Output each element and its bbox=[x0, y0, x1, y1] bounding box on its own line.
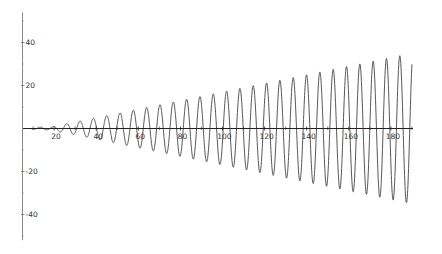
y-tick-label: 40 bbox=[26, 38, 36, 47]
y-tick-label: 20 bbox=[26, 81, 36, 90]
x-tick-label: 120 bbox=[259, 132, 274, 141]
plot-area bbox=[23, 56, 412, 203]
y-axis: 4020-20-40 bbox=[21, 12, 38, 240]
x-tick-label: 80 bbox=[178, 132, 188, 141]
x-tick-label: 40 bbox=[93, 132, 103, 141]
x-tick-label: 60 bbox=[136, 132, 146, 141]
x-tick-label: 20 bbox=[51, 132, 61, 141]
series-line bbox=[23, 56, 412, 203]
x-axis: 20406080100120140160180 bbox=[23, 127, 413, 141]
x-tick-label: 180 bbox=[386, 132, 401, 141]
y-tick-label: -40 bbox=[26, 210, 38, 219]
x-tick-label: 140 bbox=[302, 132, 317, 141]
x-tick-label: 100 bbox=[217, 132, 232, 141]
line-chart: 20406080100120140160180 4020-20-40 bbox=[0, 0, 442, 254]
y-tick-label: -20 bbox=[26, 167, 38, 176]
x-tick-label: 160 bbox=[344, 132, 359, 141]
